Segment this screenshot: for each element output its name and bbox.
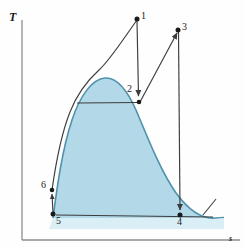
process-1-to-2-arrow xyxy=(137,21,139,96)
state-label-5: 5 xyxy=(56,216,61,226)
state-label-1: 1 xyxy=(141,11,146,21)
state-point-2 xyxy=(137,100,142,105)
state-label-3: 3 xyxy=(182,22,187,32)
lower-shading-band xyxy=(49,218,224,229)
state-label-4: 4 xyxy=(177,217,182,227)
state-point-3 xyxy=(176,28,181,33)
isobar-line-at-state-2 xyxy=(77,103,139,104)
state-point-6 xyxy=(50,188,55,193)
state-label-2: 2 xyxy=(127,84,132,94)
quality-line-tick xyxy=(203,199,216,215)
vapor-dome-fill xyxy=(53,78,215,218)
y-axis-label: T xyxy=(9,11,16,23)
process-2-to-3-arrow xyxy=(140,33,177,102)
state-label-6: 6 xyxy=(41,180,46,190)
process-5-to-6-arrow xyxy=(52,194,53,213)
ts-diagram-figure: T s 1 2 3 4 5 6 xyxy=(0,0,245,249)
x-axis-label: s xyxy=(229,235,232,243)
state-point-5 xyxy=(51,212,56,217)
dome-right-tail xyxy=(215,217,224,218)
process-3-to-4-arrow xyxy=(179,32,181,210)
state-point-1 xyxy=(135,17,140,22)
diagram-canvas xyxy=(0,0,245,249)
